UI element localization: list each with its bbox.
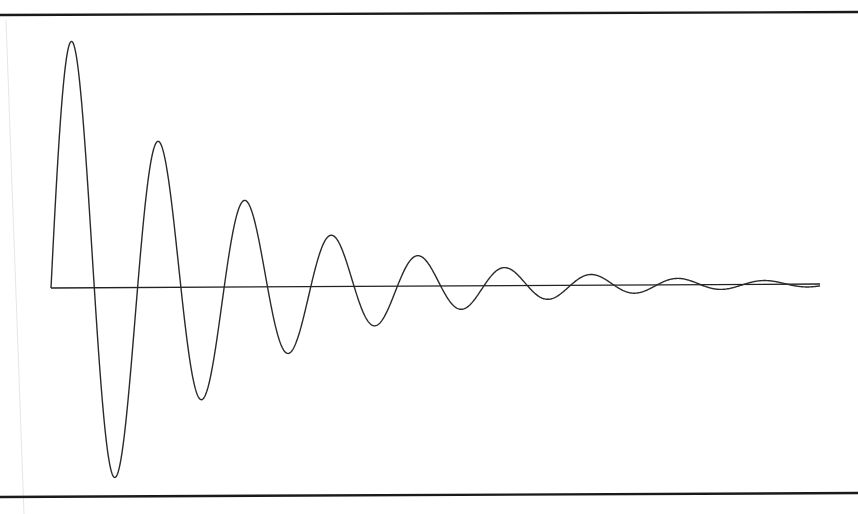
damped-oscillation-chart bbox=[0, 0, 858, 514]
damped-sine-curve bbox=[51, 41, 820, 477]
top-border-line bbox=[0, 12, 858, 15]
paper-edge-line bbox=[6, 20, 24, 514]
bottom-border-line bbox=[0, 493, 858, 497]
